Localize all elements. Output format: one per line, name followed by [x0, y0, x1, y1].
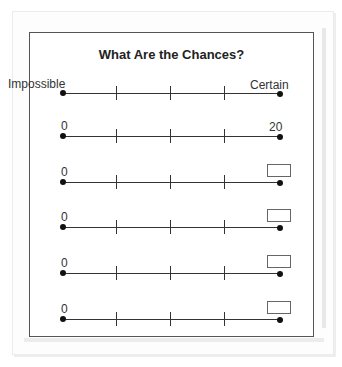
left-label: 0	[61, 210, 68, 224]
tick-mark	[224, 266, 225, 280]
start-dot	[60, 90, 66, 96]
left-label: 0	[61, 256, 68, 270]
end-dot	[277, 317, 283, 323]
number-line-row: 0	[30, 165, 313, 195]
tick-mark	[170, 266, 171, 280]
answer-box[interactable]	[267, 209, 291, 222]
left-label: 0	[61, 119, 68, 133]
answer-box[interactable]	[267, 255, 291, 268]
worksheet-title: What Are the Chances?	[30, 47, 313, 62]
start-dot	[60, 270, 66, 276]
end-dot	[277, 91, 283, 97]
worksheet-frame: What Are the Chances? Impossible Certain…	[29, 32, 314, 337]
end-dot	[277, 180, 283, 186]
number-line-row: Impossible Certain	[30, 77, 313, 107]
number-line	[63, 182, 280, 183]
tick-mark	[224, 86, 225, 100]
start-dot	[60, 133, 66, 139]
left-label: 0	[61, 302, 68, 316]
left-label: 0	[61, 165, 68, 179]
tick-mark	[170, 129, 171, 143]
number-line-row: 0	[30, 302, 313, 332]
tick-mark	[170, 312, 171, 326]
left-label: Impossible	[8, 77, 65, 91]
number-line	[63, 136, 280, 137]
tick-mark	[170, 220, 171, 234]
number-line	[63, 319, 280, 320]
tick-mark	[170, 175, 171, 189]
start-dot	[60, 316, 66, 322]
number-line-row: 0	[30, 210, 313, 240]
number-line-row: 0 20	[30, 119, 313, 149]
tick-mark	[116, 175, 117, 189]
tick-mark	[116, 312, 117, 326]
right-label: Certain	[250, 78, 289, 92]
end-dot	[277, 225, 283, 231]
tick-mark	[224, 129, 225, 143]
number-line-row: 0	[30, 256, 313, 286]
tick-mark	[116, 129, 117, 143]
tick-mark	[170, 86, 171, 100]
page-shadow-bottom	[24, 338, 324, 342]
number-line	[63, 227, 280, 228]
end-dot	[277, 134, 283, 140]
start-dot	[60, 224, 66, 230]
number-line	[63, 93, 280, 94]
answer-box[interactable]	[267, 301, 291, 314]
page-shadow	[322, 28, 326, 328]
end-dot	[277, 271, 283, 277]
tick-mark	[116, 220, 117, 234]
tick-mark	[224, 220, 225, 234]
tick-mark	[116, 86, 117, 100]
number-line	[63, 273, 280, 274]
tick-mark	[116, 266, 117, 280]
tick-mark	[224, 312, 225, 326]
right-label: 20	[269, 120, 282, 134]
answer-box[interactable]	[267, 164, 291, 177]
tick-mark	[224, 175, 225, 189]
start-dot	[60, 179, 66, 185]
